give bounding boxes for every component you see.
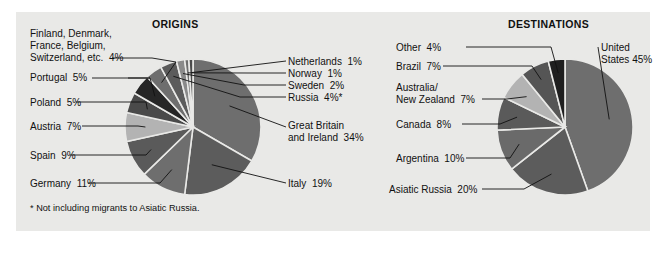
origins-label-misc-line3: Switzerland, etc. 4% xyxy=(30,52,123,64)
destinations-label-asiatic-russia: Asiatic Russia 20% xyxy=(389,184,477,196)
origins-label-poland: Poland 5% xyxy=(30,97,81,109)
origins-label-netherlands: Netherlands 1% xyxy=(288,56,362,68)
destinations-label-argentina: Argentina 10% xyxy=(396,153,464,165)
origins-label-misc-line2: France, Belgium, xyxy=(30,40,106,52)
origins-label-russia: Russia 4%* xyxy=(288,92,342,104)
figure-root: ORIGINS DESTINATIONS Finland, Denmark, F… xyxy=(0,0,666,255)
chart-title-destinations: DESTINATIONS xyxy=(508,18,589,30)
origins-label-great-britain-line2: and Ireland 34% xyxy=(288,132,364,144)
figure-footnote: * Not including migrants to Asiatic Russ… xyxy=(30,203,200,213)
origins-label-sweden: Sweden 2% xyxy=(288,80,344,92)
origins-label-austria: Austria 7% xyxy=(30,121,81,133)
destinations-label-other: Other 4% xyxy=(396,42,441,54)
origins-label-italy: Italy 19% xyxy=(288,178,332,190)
origins-label-great-britain-line1: Great Britain xyxy=(288,120,344,132)
chart-title-origins: ORIGINS xyxy=(152,18,198,30)
destinations-label-australia-line1: Australia/ xyxy=(396,82,438,94)
origins-label-norway: Norway 1% xyxy=(288,68,342,80)
origins-label-germany: Germany 11% xyxy=(30,178,96,190)
destinations-label-united-states-line2: States 45% xyxy=(601,54,652,66)
destinations-label-australia-line2: New Zealand 7% xyxy=(396,94,475,106)
destinations-label-brazil: Brazil 7% xyxy=(396,61,441,73)
origins-label-misc-line1: Finland, Denmark, xyxy=(30,28,112,40)
origins-label-portugal: Portugal 5% xyxy=(30,72,87,84)
destinations-label-united-states-line1: United xyxy=(601,42,630,54)
destinations-label-canada: Canada 8% xyxy=(396,119,451,131)
origins-label-spain: Spain 9% xyxy=(30,150,76,162)
